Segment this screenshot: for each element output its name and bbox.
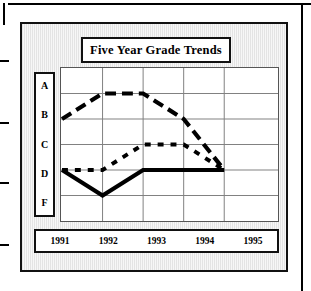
- frame-tick-2: [0, 122, 9, 124]
- grid-lines: [61, 68, 278, 221]
- x-axis-label-box: 1991 1992 1993 1994 1995: [34, 229, 279, 253]
- x-axis-label-1991: 1991: [36, 236, 84, 246]
- y-axis-label-c: C: [41, 140, 48, 150]
- y-axis-label-b: B: [41, 110, 48, 120]
- frame-rule-right: [301, 3, 303, 291]
- y-axis-label-f: F: [41, 198, 47, 208]
- plot-svg: [61, 68, 278, 221]
- chart-title-box: Five Year Grade Trends: [81, 37, 231, 63]
- x-axis-label-1995: 1995: [229, 236, 277, 246]
- x-axis-label-1993: 1993: [132, 236, 180, 246]
- y-axis-label-a: A: [41, 81, 48, 91]
- y-axis-label-box: A B C D F: [34, 72, 55, 217]
- frame-rule-left: [3, 3, 5, 25]
- frame-tick-3: [0, 182, 9, 184]
- frame-tick-4: [0, 244, 9, 246]
- chart-panel: Five Year Grade Trends A B C D F 1991 19…: [20, 22, 288, 272]
- y-axis-label-d: D: [41, 169, 48, 179]
- chart-panel-inner: Five Year Grade Trends A B C D F 1991 19…: [25, 27, 283, 267]
- plot-area: [60, 67, 279, 222]
- x-axis-label-1992: 1992: [84, 236, 132, 246]
- x-axis-label-1994: 1994: [181, 236, 229, 246]
- frame-rule-top: [8, 3, 311, 5]
- chart-title: Five Year Grade Trends: [90, 43, 222, 58]
- frame-tick-1: [0, 60, 9, 62]
